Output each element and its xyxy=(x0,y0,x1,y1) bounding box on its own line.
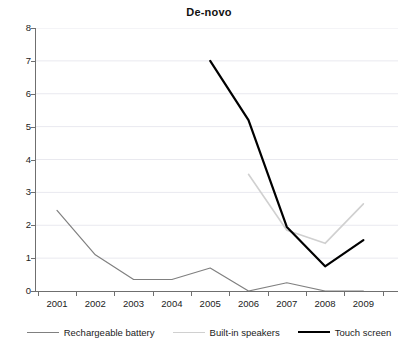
x-axis-tick-label: 2007 xyxy=(267,298,307,309)
y-axis-tick-label: 6 xyxy=(5,89,31,98)
x-axis-tick-label: 2003 xyxy=(114,298,154,309)
x-axis-tick-mark xyxy=(153,292,154,296)
x-axis-tick-mark xyxy=(191,292,192,296)
y-axis-tick-label: 4 xyxy=(5,155,31,164)
y-axis-tick-label: 3 xyxy=(5,187,31,196)
series-lines xyxy=(36,28,398,291)
chart-figure: De-novo 012345678 2001200220032004200520… xyxy=(0,0,418,351)
y-axis-tick-label: 7 xyxy=(5,56,31,65)
y-axis-tick-labels: 012345678 xyxy=(0,0,31,351)
y-axis-tick-label: 5 xyxy=(5,122,31,131)
chart-title: De-novo xyxy=(0,6,418,18)
x-axis-tick-mark xyxy=(268,292,269,296)
x-axis-tick-label: 2006 xyxy=(229,298,269,309)
x-axis-tick-label: 2005 xyxy=(190,298,230,309)
y-axis-tick-label: 8 xyxy=(5,23,31,32)
legend-swatch-icon xyxy=(27,332,59,333)
legend-label: Touch screen xyxy=(335,327,392,338)
plot-area xyxy=(36,28,398,291)
x-axis-tick-mark xyxy=(76,292,77,296)
y-axis-tick-label: 2 xyxy=(5,220,31,229)
series-line xyxy=(210,61,363,266)
chart-legend: Rechargeable batteryBuilt-in speakersTou… xyxy=(0,322,418,342)
series-line xyxy=(249,174,364,243)
legend-item[interactable]: Touch screen xyxy=(298,327,392,338)
x-axis-tick-mark xyxy=(38,292,39,296)
x-axis-tick-mark xyxy=(383,292,384,296)
x-axis-tick-label: 2009 xyxy=(343,298,383,309)
legend-label: Built-in speakers xyxy=(210,327,280,338)
legend-item[interactable]: Built-in speakers xyxy=(173,327,280,338)
legend-item[interactable]: Rechargeable battery xyxy=(27,327,155,338)
x-axis-tick-mark xyxy=(114,292,115,296)
legend-label: Rechargeable battery xyxy=(64,327,155,338)
series-line xyxy=(57,210,363,291)
x-axis-tick-label: 2008 xyxy=(305,298,345,309)
x-axis-tick-mark xyxy=(229,292,230,296)
x-axis-tick-label: 2001 xyxy=(37,298,77,309)
y-axis-tick-label: 0 xyxy=(5,286,31,295)
x-axis-tick-label: 2004 xyxy=(152,298,192,309)
x-axis-tick-label: 2002 xyxy=(75,298,115,309)
legend-swatch-icon xyxy=(298,331,330,333)
legend-swatch-icon xyxy=(173,332,205,333)
x-axis-tick-mark xyxy=(306,292,307,296)
y-axis-tick-label: 1 xyxy=(5,253,31,262)
x-axis-tick-mark xyxy=(344,292,345,296)
